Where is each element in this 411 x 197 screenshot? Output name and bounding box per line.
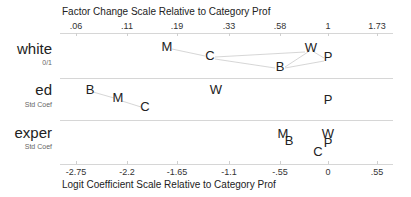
bottom-tick-label: -1.1 <box>221 167 237 177</box>
point-ed-B: B <box>86 83 95 96</box>
bottom-tick-label: 0 <box>325 167 330 177</box>
bottom-tick-label: -2.2 <box>119 167 135 177</box>
bottom-axis-title: Logit Coefficient Scale Relative to Cate… <box>62 179 276 190</box>
point-exper-C: C <box>313 145 322 158</box>
bottom-tick-label: -.55 <box>272 167 288 177</box>
point-white-W: W <box>305 41 317 54</box>
point-ed-M: M <box>113 91 124 104</box>
point-exper-P: P <box>324 136 333 149</box>
point-ed-P: P <box>324 93 333 106</box>
bottom-tick-label: -1.65 <box>167 167 188 177</box>
bottom-tick-label: -2.75 <box>66 167 87 177</box>
point-ed-C: C <box>140 100 149 113</box>
point-white-P: P <box>324 50 333 63</box>
connector-lines <box>0 0 411 197</box>
point-white-C: C <box>205 49 214 62</box>
point-ed-W: W <box>210 83 222 96</box>
point-white-B: B <box>276 60 285 73</box>
point-white-M: M <box>162 40 173 53</box>
bottom-tick-label: .55 <box>371 167 384 177</box>
point-exper-B: B <box>285 134 294 147</box>
